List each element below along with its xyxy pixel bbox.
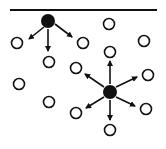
open-particle xyxy=(105,47,116,58)
open-particle xyxy=(104,19,115,30)
open-particle xyxy=(71,63,82,74)
open-particle xyxy=(105,125,116,136)
open-particle xyxy=(14,79,25,90)
open-particle xyxy=(44,97,55,108)
surface-particle xyxy=(41,14,55,28)
open-particle xyxy=(44,57,55,68)
molecular-forces-diagram xyxy=(0,0,166,149)
force-arrow-icon xyxy=(116,97,135,106)
force-arrow-icon xyxy=(116,77,137,87)
bulk-particle xyxy=(103,85,117,99)
open-particle xyxy=(143,70,154,81)
force-arrow-icon xyxy=(86,97,104,108)
open-particle xyxy=(78,38,89,49)
open-particle xyxy=(12,38,23,49)
open-particle xyxy=(71,108,82,119)
force-arrow-icon xyxy=(55,24,72,37)
open-particle xyxy=(139,36,150,47)
force-arrow-icon xyxy=(85,74,104,87)
force-arrow-icon xyxy=(29,27,44,39)
open-particle xyxy=(141,104,152,115)
